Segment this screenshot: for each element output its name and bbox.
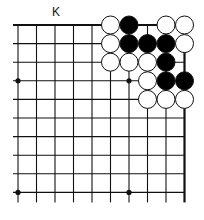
- black-stone[interactable]: [157, 35, 175, 53]
- white-stone[interactable]: [139, 90, 157, 108]
- white-stone[interactable]: [102, 35, 120, 53]
- white-stone[interactable]: [102, 53, 120, 71]
- white-stone[interactable]: [157, 16, 175, 34]
- black-stone[interactable]: [120, 35, 138, 53]
- white-stone[interactable]: [120, 53, 138, 71]
- black-stone[interactable]: [157, 72, 175, 90]
- white-stone[interactable]: [139, 72, 157, 90]
- white-stone[interactable]: [102, 16, 120, 34]
- black-stone[interactable]: [139, 35, 157, 53]
- white-stone[interactable]: [139, 53, 157, 71]
- star-point: [126, 190, 131, 195]
- white-stone[interactable]: [176, 16, 194, 34]
- white-stone[interactable]: [176, 90, 194, 108]
- black-stone[interactable]: [157, 53, 175, 71]
- star-point: [126, 78, 131, 83]
- star-point: [15, 78, 20, 83]
- black-stone[interactable]: [176, 72, 194, 90]
- white-stone[interactable]: [176, 35, 194, 53]
- black-stone[interactable]: [120, 16, 138, 34]
- go-board[interactable]: [0, 0, 204, 220]
- star-point: [15, 190, 20, 195]
- white-stone[interactable]: [157, 90, 175, 108]
